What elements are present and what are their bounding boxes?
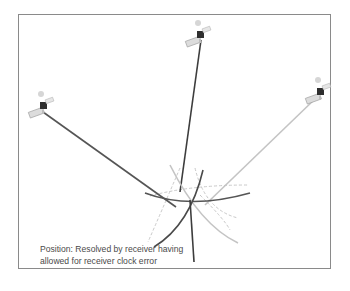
satellite-icon-top	[185, 20, 211, 47]
diagram-caption: Position: Resolved by receiver having al…	[40, 243, 183, 267]
satellite-icon-right	[305, 77, 331, 104]
caption-line-1: Position: Resolved by receiver having	[40, 243, 183, 255]
arc-light	[170, 165, 238, 243]
satellite-icon-left	[28, 91, 54, 118]
range-line-top	[180, 40, 201, 192]
caption-line-2: allowed for receiver clock error	[40, 255, 183, 267]
arc-horizontal	[145, 193, 250, 202]
arc-vertical	[190, 200, 194, 262]
range-line-right	[205, 98, 316, 205]
range-line-left	[43, 112, 176, 207]
